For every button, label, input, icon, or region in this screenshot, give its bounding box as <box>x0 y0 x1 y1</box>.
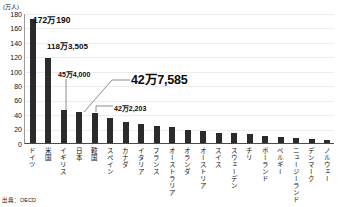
x-axis-label: チリ <box>245 147 252 161</box>
bar <box>324 140 330 143</box>
bar <box>107 118 113 143</box>
bar <box>123 122 129 143</box>
data-label-germany: 172万190 <box>33 13 70 25</box>
y-axis-tick: 20 <box>2 126 22 133</box>
x-axis-label: ニュージーランド <box>292 147 299 203</box>
bar <box>185 130 191 143</box>
gridline <box>25 28 334 29</box>
bar <box>76 112 82 143</box>
x-axis-label: オーストラリア <box>168 147 175 196</box>
x-axis-label: 米国 <box>44 147 51 161</box>
bar <box>138 124 144 143</box>
y-axis-tick: 40 <box>2 111 22 118</box>
data-label-japan: 42万7,585 <box>131 69 188 88</box>
data-label-korea: 42万2,203 <box>114 103 146 113</box>
source-note: 出典：OECD <box>2 197 36 204</box>
bar <box>61 110 67 143</box>
bar <box>200 131 206 143</box>
x-axis-label: ベルギー <box>276 147 283 175</box>
y-axis-tick: 80 <box>2 83 22 90</box>
x-axis-label: イギリス <box>59 147 66 175</box>
bar <box>293 138 299 143</box>
bar <box>92 113 98 143</box>
gridline <box>25 101 334 102</box>
y-axis-tick: 120 <box>2 54 22 61</box>
y-axis-tick: 60 <box>2 97 22 104</box>
bar <box>45 58 51 144</box>
gridline <box>25 130 334 131</box>
bar-chart: (万人) 180 160 140 120 100 80 60 40 20 0 ド… <box>0 0 338 207</box>
x-axis-label: ノルウェー <box>323 147 330 182</box>
data-label-uk: 45万4,000 <box>58 69 90 79</box>
x-axis-label: スウェーデン <box>230 147 237 189</box>
bar <box>309 139 315 143</box>
x-axis-label: フランス <box>152 147 159 175</box>
x-axis-label: スイス <box>214 147 221 168</box>
gridline <box>25 14 334 15</box>
bar <box>169 127 175 143</box>
bar <box>30 19 36 143</box>
x-axis-label: カナダ <box>121 147 128 168</box>
y-axis-tick: 140 <box>2 39 22 46</box>
bar <box>278 137 284 144</box>
gridline <box>25 115 334 116</box>
x-axis-label: ポーランド <box>261 147 268 182</box>
x-axis-label: スペイン <box>106 147 113 175</box>
data-label-usa: 118万3,505 <box>47 40 88 51</box>
x-axis-label: オランダ <box>183 147 190 175</box>
y-axis-tick: 100 <box>2 68 22 75</box>
x-axis-label: イタリア <box>137 147 144 175</box>
bar <box>231 133 237 143</box>
gridline <box>25 57 334 58</box>
x-axis-label: 日本 <box>75 147 82 161</box>
bar <box>247 134 253 143</box>
bar <box>154 126 160 143</box>
y-axis-tick: 0 <box>2 140 22 147</box>
bar <box>216 133 222 143</box>
y-axis-tick: 180 <box>2 11 22 18</box>
x-axis-label: 韓国 <box>90 147 97 161</box>
x-axis-label: ドイツ <box>28 147 35 168</box>
x-axis-label: オーストリア <box>199 147 206 189</box>
bar <box>262 136 268 143</box>
x-axis-label: デンマーク <box>307 147 314 182</box>
y-axis-tick: 160 <box>2 25 22 32</box>
